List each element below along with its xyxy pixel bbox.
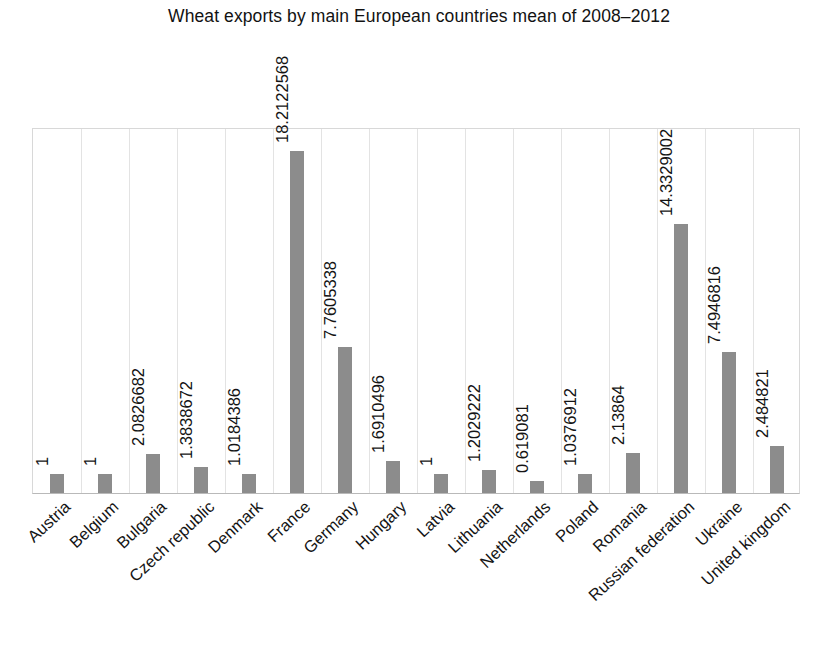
bar-group[interactable]: 1 — [417, 129, 465, 493]
bar[interactable] — [290, 151, 304, 493]
bar[interactable] — [50, 474, 64, 493]
bar-group[interactable]: 0.619081 — [513, 129, 561, 493]
bar-group[interactable]: 7.4946816 — [705, 129, 753, 493]
bar-group[interactable]: 1.6910496 — [369, 129, 417, 493]
bar-value-label: 1.3838672 — [179, 381, 194, 463]
chart-title: Wheat exports by main European countries… — [0, 6, 838, 27]
bar-value-label: 1.2029222 — [467, 384, 482, 466]
bar-chart: Wheat exports by main European countries… — [0, 0, 838, 659]
bar-value-label: 1.0184386 — [227, 388, 242, 470]
bar-group[interactable]: 1.0184386 — [225, 129, 273, 493]
plot-area: 112.08266821.38386721.018438618.21225687… — [32, 128, 800, 494]
bar-group[interactable]: 2.0826682 — [129, 129, 177, 493]
bar-value-label: 14.3329002 — [659, 129, 674, 220]
bar-group[interactable]: 14.3329002 — [657, 129, 705, 493]
bar-value-label: 2.0826682 — [131, 368, 146, 450]
bar-value-label: 7.7605338 — [323, 261, 338, 343]
bar-value-label: 18.2122568 — [275, 56, 290, 147]
bar-group[interactable]: 1.0376912 — [561, 129, 609, 493]
bar-group[interactable]: 1.2029222 — [465, 129, 513, 493]
bar-value-label: 7.4946816 — [707, 266, 722, 348]
bar-group[interactable]: 7.7605338 — [321, 129, 369, 493]
bar-value-label: 1 — [35, 457, 50, 470]
bar-group[interactable]: 1.3838672 — [177, 129, 225, 493]
bar-value-label: 1.6910496 — [371, 375, 386, 457]
bars-layer: 112.08266821.38386721.018438618.21225687… — [33, 129, 799, 493]
bar-group[interactable]: 2.13864 — [609, 129, 657, 493]
bar-value-label: 2.13864 — [611, 385, 626, 449]
bar-group[interactable]: 1 — [81, 129, 129, 493]
x-axis-category-labels: AustriaBelgiumBulgariaCzech republicDenm… — [32, 498, 800, 648]
bar-group[interactable]: 1 — [33, 129, 81, 493]
bar-value-label: 1.0376912 — [563, 388, 578, 470]
